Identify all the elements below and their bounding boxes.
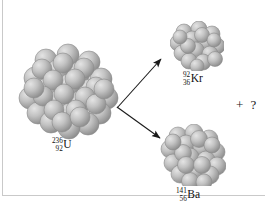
fission-diagram: the chain reaction can continue.: [0, 0, 267, 209]
arrow-to-barium: [117, 107, 160, 138]
arrow-to-krypton: [117, 59, 161, 108]
plus-unknown-annotation: + ?: [236, 97, 258, 113]
fission-arrows: [0, 0, 267, 209]
